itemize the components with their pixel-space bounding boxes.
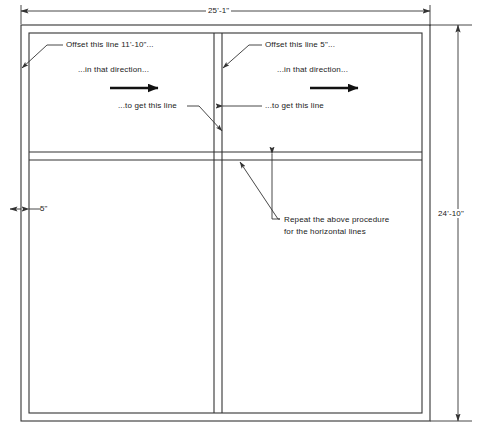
wall-thickness-text: 5" [40, 204, 48, 214]
left-annotation-leader [22, 45, 63, 68]
overall-height-dimension-text: 24'-10" [436, 209, 466, 218]
right-dimension-line [430, 25, 472, 421]
bottom-instruction-line2: for the horizontal lines [284, 226, 366, 237]
left-offset-instruction-line1: Offset this line 11'-10"... [66, 40, 154, 50]
bottom-annotation-leaders [240, 154, 280, 219]
cad-drawing-vector [0, 0, 479, 429]
overall-width-dimension-text: 25'-1" [206, 6, 231, 15]
bottom-instruction-line1: Repeat the above procedure [284, 214, 389, 225]
right-offset-instruction-line3: ...to get this line [265, 101, 324, 111]
left-offset-instruction-line3: ...to get this line [118, 101, 177, 111]
drawing-canvas: 25'-1" 24'-10" 5" Offset this line 11'-1… [0, 0, 479, 429]
right-offset-instruction-line1: Offset this line 5"... [265, 40, 335, 50]
right-annotation-leader [223, 45, 262, 68]
left-offset-instruction-line2: ...in that direction... [78, 65, 149, 75]
right-offset-instruction-line2: ...in that direction... [277, 65, 348, 75]
left-get-line-leader [187, 106, 222, 131]
